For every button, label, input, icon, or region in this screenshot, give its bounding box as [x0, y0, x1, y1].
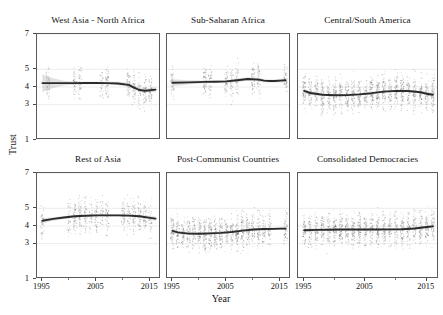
x-tick-label: 2005 [208, 282, 242, 291]
x-tick-mark [364, 278, 365, 281]
x-tick-label: 1995 [24, 282, 58, 291]
x-tick-mark-minor [122, 278, 123, 280]
panel-title: Sub-Saharan Africa [166, 15, 290, 25]
x-tick-mark-minor [252, 278, 253, 280]
y-tick-mark [33, 139, 36, 140]
y-tick-mark [33, 86, 36, 87]
x-tick-mark-minor [395, 278, 396, 280]
x-tick-mark [303, 278, 304, 281]
panel-title: Central/South America [297, 15, 438, 25]
observation-points [170, 207, 288, 255]
y-tick-mark [33, 33, 36, 34]
y-tick-mark [33, 104, 36, 105]
y-tick-mark [33, 172, 36, 173]
plot-area [297, 172, 438, 278]
x-tick-mark [171, 278, 172, 281]
x-tick-mark [225, 278, 226, 281]
figure-root: Trust Year West Asia - North Africa13457… [0, 0, 443, 315]
x-tick-mark-minor [334, 278, 335, 280]
x-axis-title: Year [181, 293, 261, 304]
y-tick-mark [33, 68, 36, 69]
x-tick-mark-minor [68, 278, 69, 280]
y-tick-label: 5 [15, 63, 29, 73]
y-tick-mark [33, 225, 36, 226]
y-axis-title: Trust [7, 125, 18, 165]
y-tick-label: 3 [15, 98, 29, 108]
plot-area [166, 33, 290, 139]
plot-area [36, 33, 160, 139]
x-tick-label: 2005 [347, 282, 381, 291]
y-tick-label: 1 [15, 273, 29, 283]
panel-title: Rest of Asia [36, 154, 160, 164]
x-tick-mark [41, 278, 42, 281]
panel-canvas [167, 34, 290, 139]
panel-canvas [298, 34, 438, 139]
y-tick-label: 7 [15, 28, 29, 38]
plot-area [297, 33, 438, 139]
x-tick-label: 2005 [78, 282, 112, 291]
panel-title: Post-Communist Countries [166, 154, 290, 164]
y-tick-mark [33, 207, 36, 208]
x-tick-mark [149, 278, 150, 281]
panel-title: Consolidated Democracies [297, 154, 438, 164]
plot-area [166, 172, 290, 278]
plot-area [36, 172, 160, 278]
y-tick-label: 4 [15, 220, 29, 230]
panel-canvas [37, 173, 160, 278]
x-tick-label: 1995 [154, 282, 188, 291]
y-tick-label: 4 [15, 81, 29, 91]
y-tick-label: 1 [15, 134, 29, 144]
panel-canvas [37, 34, 160, 139]
x-tick-label: 1995 [286, 282, 320, 291]
y-tick-mark [33, 243, 36, 244]
panel-title: West Asia - North Africa [36, 15, 160, 25]
x-tick-mark [279, 278, 280, 281]
y-tick-mark [33, 278, 36, 279]
y-tick-label: 3 [15, 237, 29, 247]
x-tick-label: 2015 [409, 282, 443, 291]
x-tick-mark-minor [198, 278, 199, 280]
panel-canvas [167, 173, 290, 278]
panel-canvas [298, 173, 438, 278]
y-tick-label: 7 [15, 167, 29, 177]
x-tick-mark [95, 278, 96, 281]
y-tick-label: 5 [15, 202, 29, 212]
x-tick-mark [426, 278, 427, 281]
